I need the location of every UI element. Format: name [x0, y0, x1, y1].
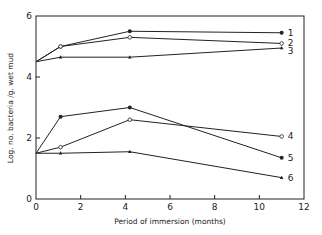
series-lines: [36, 31, 282, 177]
y-tick-label: 2: [26, 133, 32, 143]
y-tick-label: 6: [26, 11, 32, 21]
x-tick-label: 0: [33, 202, 39, 212]
series-markers: [59, 29, 284, 179]
x-tick-label: 8: [212, 202, 218, 212]
x-axis-label: Period of immersion (months): [114, 217, 226, 226]
x-tick-label: 10: [254, 202, 266, 212]
y-tick-label: 0: [26, 194, 32, 204]
series-label-1: 1: [288, 28, 294, 38]
y-tick-label: 4: [26, 72, 32, 82]
series-label-5: 5: [288, 153, 294, 163]
series-label-6: 6: [288, 173, 294, 183]
series-label-3: 3: [288, 46, 294, 56]
line-chart: 024681012 0246 123456 Period of immersio…: [0, 0, 322, 235]
x-tick-label: 12: [298, 202, 309, 212]
y-axis-ticks: 0246: [26, 11, 40, 204]
series-label-4: 4: [288, 131, 294, 141]
x-tick-label: 4: [122, 202, 128, 212]
series-line-2: [36, 37, 282, 61]
series-line-4: [36, 120, 282, 154]
series-labels: 123456: [288, 28, 294, 183]
x-axis-ticks: 024681012: [33, 195, 310, 212]
x-tick-label: 2: [78, 202, 84, 212]
series-line-6: [36, 152, 282, 178]
y-axis-label: Log. no. bacteria /g. wet mud: [6, 53, 15, 164]
series-line-3: [36, 48, 282, 62]
x-tick-label: 6: [167, 202, 173, 212]
